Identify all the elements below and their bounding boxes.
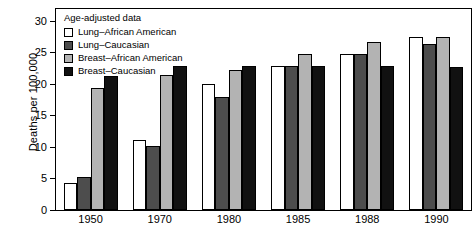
bar[interactable] [312, 66, 326, 210]
x-axis-tick-label: 1970 [148, 213, 172, 225]
bar[interactable] [215, 97, 229, 210]
y-axis-tick-label: 10 [35, 141, 47, 152]
y-axis-tick-label: 20 [35, 78, 47, 89]
x-axis-tick-label: 1988 [355, 213, 379, 225]
bar-group [264, 9, 333, 210]
bar[interactable] [298, 54, 312, 210]
bar[interactable] [354, 54, 368, 210]
legend-swatch-icon [64, 41, 73, 50]
y-axis-tick-label: 0 [41, 204, 47, 215]
y-axis-tick-label: 5 [41, 173, 47, 184]
bar[interactable] [381, 66, 395, 210]
bar[interactable] [409, 37, 423, 210]
x-axis-tick-label: 1985 [286, 213, 310, 225]
bar[interactable] [242, 66, 256, 210]
y-axis: 051015202530 [30, 8, 56, 211]
x-axis: 195019701980198519881990 [55, 213, 472, 229]
legend-item-label: Breast–African American [78, 53, 183, 63]
bar-group [333, 9, 402, 210]
bar-group [194, 9, 263, 210]
legend: Age-adjusted data Lung–African AmericanL… [64, 12, 183, 78]
x-axis-tick-label: 1980 [217, 213, 241, 225]
bar[interactable] [77, 177, 91, 210]
bar[interactable] [64, 183, 78, 210]
bar[interactable] [91, 88, 105, 210]
legend-swatch-icon [64, 28, 73, 37]
legend-title: Age-adjusted data [64, 12, 183, 23]
legend-item-label: Breast–Caucasian [78, 66, 156, 76]
bar-group [402, 9, 471, 210]
legend-item[interactable]: Lung–African American [64, 26, 183, 38]
bar[interactable] [133, 140, 147, 210]
bar-chart: Deaths per 100,000 051015202530 Age-adju… [0, 0, 474, 229]
y-axis-tick-label: 25 [35, 47, 47, 58]
bar[interactable] [450, 67, 464, 210]
legend-item[interactable]: Breast–Caucasian [64, 65, 183, 77]
bar[interactable] [229, 70, 243, 210]
bar[interactable] [271, 66, 285, 210]
y-axis-tick-label: 30 [35, 16, 47, 27]
bar[interactable] [173, 66, 187, 210]
bar[interactable] [423, 44, 437, 210]
bar[interactable] [202, 84, 216, 210]
x-axis-tick-label: 1990 [424, 213, 448, 225]
bar[interactable] [436, 37, 450, 210]
legend-item[interactable]: Lung–Caucasian [64, 39, 183, 51]
x-axis-tick-label: 1950 [78, 213, 102, 225]
bar[interactable] [104, 76, 118, 210]
legend-item[interactable]: Breast–African American [64, 52, 183, 64]
bar[interactable] [367, 42, 381, 210]
bar[interactable] [160, 75, 174, 210]
y-axis-tick-label: 15 [35, 110, 47, 121]
legend-item-label: Lung–Caucasian [78, 40, 149, 50]
bar[interactable] [285, 66, 299, 210]
bar[interactable] [340, 54, 354, 210]
legend-swatch-icon [64, 67, 73, 76]
legend-swatch-icon [64, 54, 73, 63]
bar[interactable] [146, 146, 160, 210]
legend-item-label: Lung–African American [78, 27, 176, 37]
